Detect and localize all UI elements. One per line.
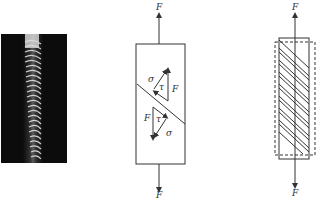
diagrams: F F σ τ F F τ σ F F (0, 0, 331, 200)
tau-arrow-upper (155, 92, 168, 101)
slip-diagram (275, 15, 315, 186)
label-force-top: F (155, 2, 163, 12)
label-force-upper: F (171, 84, 179, 94)
stress-diagram (136, 15, 185, 190)
label-tau-upper: τ (159, 82, 165, 92)
label-force-bottom: F (291, 188, 299, 198)
label-force-top: F (291, 2, 299, 12)
label-tau-lower: τ (156, 114, 162, 124)
label-force-bottom: F (155, 190, 163, 200)
slip-bands (279, 40, 309, 154)
label-sigma-upper: σ (148, 74, 155, 84)
label-force-lower: F (143, 113, 151, 123)
label-sigma-lower: σ (166, 128, 173, 138)
